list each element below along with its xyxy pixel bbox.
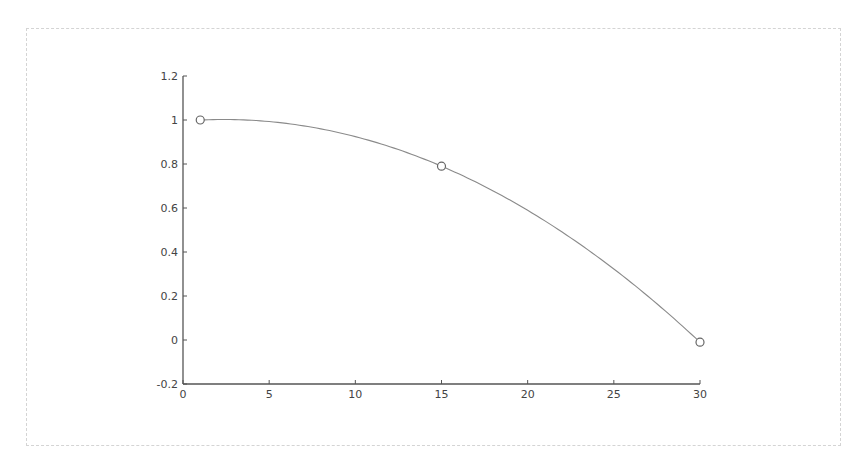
y-tick-label: 1	[171, 114, 178, 127]
x-tick-label: 20	[521, 388, 535, 401]
line-chart: -0.200.20.40.60.811.2 051015202530	[0, 0, 865, 474]
x-tick-label: 0	[180, 388, 187, 401]
y-tick-label: 1.2	[161, 70, 179, 83]
x-tick-label: 5	[266, 388, 273, 401]
x-tick-label: 10	[348, 388, 362, 401]
data-point-marker	[438, 162, 446, 170]
x-tick-label: 30	[693, 388, 707, 401]
y-tick-label: 0.2	[161, 290, 179, 303]
data-point-marker	[696, 338, 704, 346]
x-tick-label: 25	[607, 388, 621, 401]
y-tick-label: 0.4	[161, 246, 179, 259]
x-axis-ticks: 051015202530	[180, 380, 708, 401]
data-point-marker	[196, 116, 204, 124]
y-tick-label: -0.2	[157, 378, 178, 391]
axes	[183, 76, 700, 384]
y-tick-label: 0.6	[161, 202, 179, 215]
y-tick-label: 0.8	[161, 158, 179, 171]
y-tick-label: 0	[171, 334, 178, 347]
x-tick-label: 15	[435, 388, 449, 401]
data-markers	[196, 116, 704, 346]
curve-line	[200, 119, 700, 342]
